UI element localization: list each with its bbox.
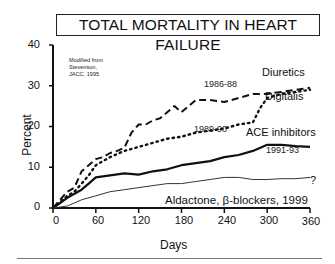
- note-line: Stevenson,: [69, 64, 119, 71]
- x-tick-label: 240: [212, 214, 242, 226]
- period-label-1989-90: 1989-90: [194, 124, 227, 134]
- series-label-diuretics: Diuretics: [262, 66, 305, 78]
- unknown-marker: ?: [310, 174, 316, 186]
- source-note: Modified from Stevenson, JACC, 1995: [69, 57, 119, 78]
- y-tick-label: 10: [20, 160, 40, 172]
- divider: [17, 258, 322, 259]
- x-axis-label: Days: [160, 238, 187, 252]
- note-line: JACC, 1995: [69, 71, 119, 78]
- x-tick-label: 360: [296, 215, 326, 227]
- x-tick-label: 300: [254, 214, 284, 226]
- x-tick-label: 60: [83, 214, 113, 226]
- note-line: Modified from: [69, 57, 119, 64]
- series-label-ace: ACE inhibitors: [246, 126, 316, 138]
- period-label-1986-88: 1986-88: [204, 79, 237, 89]
- x-tick-label: 180: [169, 214, 199, 226]
- y-tick-label: 30: [20, 79, 40, 91]
- y-tick-label: 40: [20, 38, 40, 50]
- series-label-digitalis: Digitalis: [265, 90, 304, 102]
- y-tick-label: 0: [20, 200, 40, 212]
- x-tick-label: 120: [126, 214, 156, 226]
- period-label-1991-93: 1991-93: [266, 145, 299, 155]
- y-axis-label: Percent: [20, 110, 34, 160]
- series-label-aldactone: Aldactone, β-blockers, 1999: [165, 194, 308, 206]
- x-tick-label: 0: [41, 214, 71, 226]
